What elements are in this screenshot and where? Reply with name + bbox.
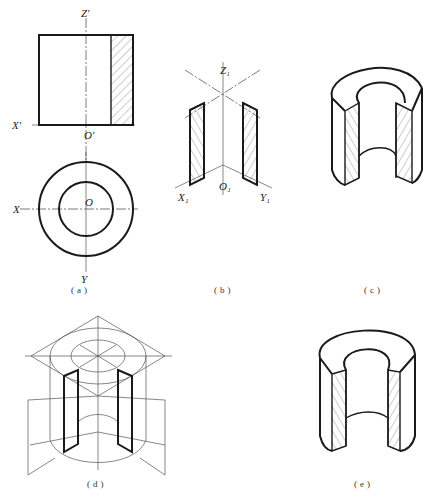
left-cut-face [64, 370, 78, 452]
caption-a: (a) [71, 285, 90, 295]
label-x-prime: X′ [11, 119, 22, 131]
panel-a-top-view: X O Y (a) [12, 152, 138, 295]
panel-d: (d) [25, 316, 172, 489]
label-z-prime: Z′ [81, 7, 90, 19]
label-z1: Z₁ [220, 64, 230, 76]
figure-canvas: Z′ X′ O′ X O Y (a) Z₁ O₁ X₁ Y₁ (b) [0, 0, 435, 501]
caption-c: (c) [364, 285, 383, 295]
panel-b: Z₁ O₁ X₁ Y₁ (b) [175, 62, 272, 295]
panel-a-front-view: Z′ X′ O′ [11, 7, 135, 160]
label-x1: X₁ [177, 191, 189, 203]
caption-b: (b) [214, 285, 234, 295]
label-o: O [85, 196, 93, 208]
caption-d: (d) [87, 479, 107, 489]
panel-c: (c) [332, 68, 422, 295]
caption-e: (e) [354, 479, 373, 489]
panel-e: (e) [320, 330, 415, 489]
label-y1: Y₁ [260, 191, 270, 203]
right-cut-face [118, 370, 132, 452]
section-hatch [111, 35, 133, 125]
label-x: X [12, 203, 21, 215]
label-o1: O₁ [219, 180, 231, 192]
label-o-prime: O′ [84, 129, 95, 141]
label-y: Y [81, 273, 89, 285]
